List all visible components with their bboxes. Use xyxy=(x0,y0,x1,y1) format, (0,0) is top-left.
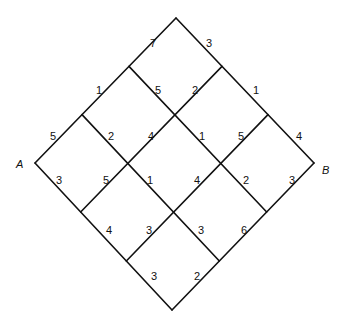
edge-weight: 3 xyxy=(151,270,157,282)
node-label-end: B xyxy=(322,164,329,176)
edge-weight: 4 xyxy=(296,130,302,142)
edge-weight: 5 xyxy=(50,130,56,142)
edge-weight: 4 xyxy=(106,224,112,236)
edge-weight: 1 xyxy=(253,84,259,96)
edge-weight: 4 xyxy=(194,174,200,186)
edge-weight: 3 xyxy=(198,224,204,236)
edge-weight: 5 xyxy=(103,174,109,186)
edge-weight: 1 xyxy=(199,130,205,142)
edge-weight: 6 xyxy=(241,224,247,236)
node-label-start: A xyxy=(15,158,23,170)
edge-weight: 2 xyxy=(192,84,198,96)
edge-weight: 1 xyxy=(147,174,153,186)
edge-weight: 7 xyxy=(150,37,156,49)
edge-weights: 731521524154351423433632 xyxy=(50,37,302,282)
edge-weight: 3 xyxy=(146,224,152,236)
edge-weight: 2 xyxy=(108,130,114,142)
grid-edges xyxy=(35,18,314,310)
edge-weight: 3 xyxy=(289,174,295,186)
edge-weight: 5 xyxy=(155,84,161,96)
grid-diagram: 731521524154351423433632 A B xyxy=(0,0,347,332)
edge-weight: 3 xyxy=(206,37,212,49)
edge-weight: 2 xyxy=(194,270,200,282)
edge-weight: 5 xyxy=(238,130,244,142)
edge-weight: 4 xyxy=(148,130,154,142)
edge-weight: 1 xyxy=(96,84,102,96)
edge-weight: 3 xyxy=(56,174,62,186)
edge-weight: 2 xyxy=(243,174,249,186)
